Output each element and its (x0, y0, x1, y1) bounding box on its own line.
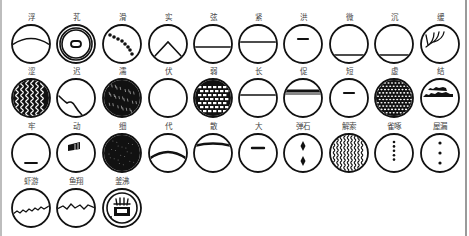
symbol-label: 芤 (73, 12, 81, 22)
pulse-symbol-jagged-low: 虾游 (12, 176, 50, 227)
dotted-fill-icon (375, 79, 413, 117)
pulse-symbol-arc-upper: 浮 (12, 12, 50, 63)
line-middle-icon (194, 25, 232, 63)
symbol-label: 滑 (119, 12, 127, 22)
pulse-symbol-wavy-vertical-lines: 解索 (330, 121, 368, 174)
dotted-vertical-icon (375, 134, 413, 172)
line-bottom-icon (330, 25, 368, 63)
boiling-pot-icon (103, 189, 141, 227)
symbol-label: 长 (255, 66, 263, 76)
filled-dark-icon (103, 134, 141, 172)
branch-claw-icon (421, 25, 459, 63)
pulse-symbol-branch-claw: 缓 (421, 12, 459, 63)
pulse-symbol-brick-grid-dark: 弱 (194, 67, 232, 117)
pulse-symbol-chevron-peak: 实 (149, 12, 187, 63)
symbol-label: 屋漏 (433, 121, 448, 131)
pulse-symbol-arc-middle-rough: 代 (149, 121, 187, 172)
beaded-diagonal-icon (103, 25, 141, 63)
symbol-label: 代 (165, 121, 173, 131)
pulse-symbol-short-bar-top: 短 (330, 66, 368, 117)
symbol-label: 牢 (28, 121, 36, 131)
pulse-symbol-filled-dark: 细 (103, 121, 141, 172)
pulse-symbol-wavy-vertical-dark: 涩 (12, 67, 50, 121)
pulse-symbol-arc-top-rough: 散 (194, 121, 232, 172)
symbol-label: 短 (346, 66, 354, 76)
empty-circle-icon (149, 79, 187, 117)
pulse-symbol-double-ring-hollow: 芤 (57, 12, 95, 63)
pulse-symbol-thick-line-top: 促 (284, 67, 322, 117)
pulse-diagram: 浮芤滑实弦紧洪微沉缓涩迟濡伏弱长促短虚结牢动细代散大弹石解索雀啄屋漏虾游鱼翔釜沸 (0, 0, 469, 236)
wave-corner-icon (57, 79, 95, 117)
symbol-label: 紧 (255, 13, 263, 22)
pulse-symbol-empty-circle: 伏 (149, 66, 187, 117)
symbol-label: 鱼翔 (69, 176, 83, 186)
line-bottom-icon (375, 25, 413, 63)
pulse-symbol-short-bar-top: 洪 (284, 12, 322, 63)
pulse-symbol-short-bar-upper: 大 (239, 121, 277, 172)
pulse-symbol-line-middle: 弦 (194, 12, 232, 63)
symbol-label: 结 (437, 66, 445, 76)
symbol-label: 促 (300, 67, 308, 76)
short-bar-upper-icon (239, 134, 277, 172)
short-bar-top-icon (330, 79, 368, 117)
line-upper-mid-icon (239, 25, 277, 63)
arc-top-rough-icon (194, 134, 232, 172)
pulse-symbol-filled-speckled: 濡 (103, 66, 141, 117)
filled-speckled-icon (103, 79, 141, 117)
pulse-symbol-short-bar-bottom: 牢 (12, 121, 50, 172)
symbol-label: 微 (346, 12, 354, 22)
pulse-symbol-line-bottom: 微 (330, 12, 368, 63)
symbol-label: 洪 (300, 12, 308, 22)
small-block-icon (57, 134, 95, 172)
double-ragged-bars-icon (421, 79, 459, 117)
pulse-symbol-two-diamonds: 弹石 (284, 121, 322, 172)
symbol-label: 雀啄 (387, 121, 402, 131)
symbol-label: 动 (73, 121, 81, 131)
pulse-symbol-line-upper-full: 长 (239, 66, 277, 117)
symbol-label: 缓 (437, 12, 445, 22)
symbol-label: 实 (165, 12, 173, 22)
symbol-label: 弹石 (296, 121, 311, 131)
line-upper-full-icon (239, 79, 277, 117)
jagged-low-icon (12, 189, 50, 227)
pulse-symbol-small-block: 动 (57, 121, 95, 172)
pulse-symbol-boiling-pot: 釜沸 (103, 176, 141, 227)
symbol-label: 细 (119, 121, 126, 131)
symbol-label: 迟 (73, 67, 81, 76)
symbol-label: 大 (255, 121, 263, 131)
pulse-symbol-three-dots: 屋漏 (421, 121, 459, 172)
symbol-label: 浮 (28, 12, 36, 22)
symbol-label: 涩 (28, 67, 36, 76)
two-diamonds-icon (284, 134, 322, 172)
brick-grid-dark-icon (194, 79, 232, 117)
symbol-label: 伏 (165, 66, 173, 76)
pulse-symbol-double-ragged-bars: 结 (421, 66, 459, 117)
wavy-vertical-dark-icon (12, 79, 50, 121)
pulse-symbol-dotted-fill: 虚 (375, 66, 413, 117)
arc-upper-icon (12, 25, 50, 63)
symbol-label: 散 (210, 121, 218, 131)
pulse-symbol-wave-corner: 迟 (57, 67, 95, 117)
pulse-symbol-line-upper-mid: 紧 (239, 13, 277, 63)
short-bar-top-icon (284, 25, 322, 63)
symbol-label: 濡 (119, 66, 127, 76)
wavy-vertical-lines-icon (330, 134, 368, 174)
chevron-peak-icon (149, 25, 187, 63)
symbol-label: 解索 (342, 121, 357, 131)
symbol-label: 弦 (210, 12, 218, 22)
symbol-label: 虾游 (24, 176, 39, 186)
pulse-symbol-dotted-vertical: 雀啄 (375, 121, 413, 172)
symbol-label: 虚 (391, 66, 399, 76)
double-ring-hollow-icon (57, 25, 95, 63)
three-dots-icon (421, 134, 459, 172)
symbol-label: 沉 (391, 13, 399, 22)
arc-middle-rough-icon (149, 134, 187, 172)
pulse-symbol-beaded-diagonal: 滑 (103, 12, 141, 63)
short-bar-bottom-icon (12, 134, 50, 172)
symbol-label: 釜沸 (115, 176, 130, 186)
pulse-symbol-line-bottom: 沉 (375, 13, 413, 63)
zigzag-middle-icon (57, 189, 95, 227)
pulse-symbol-zigzag-middle: 鱼翔 (57, 176, 95, 227)
symbol-label: 弱 (210, 67, 217, 76)
thick-line-top-icon (284, 79, 322, 117)
